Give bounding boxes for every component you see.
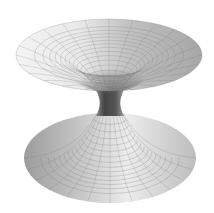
throat-surface xyxy=(96,90,124,116)
wormhole-diagram xyxy=(0,0,214,213)
throat xyxy=(96,90,124,116)
upper-funnel xyxy=(16,19,202,94)
lower-funnel xyxy=(24,113,196,203)
